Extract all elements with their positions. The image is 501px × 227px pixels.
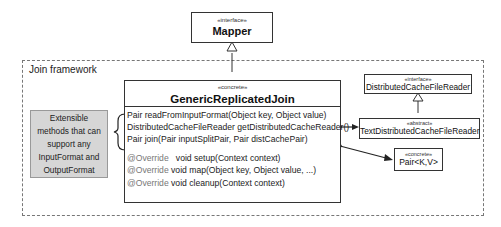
- method-map: @Override void map(Object key, Object va…: [127, 165, 316, 175]
- realization-arrowhead-icon: [413, 93, 423, 101]
- class-divider: [124, 106, 341, 107]
- association-arrowhead-icon: [384, 154, 393, 161]
- note-line: support any: [31, 138, 107, 151]
- note-line: Extensible: [31, 112, 107, 125]
- class-name: Pair<K,V>: [395, 157, 442, 168]
- method-read-from-input-format: Pair readFromInputFormat(Object key, Obj…: [127, 110, 326, 120]
- note-line: OutputFormat: [31, 164, 107, 177]
- method-setup: @Override void setup(Context context): [127, 153, 280, 163]
- override-annotation: @Override: [127, 178, 169, 188]
- realization-arrowhead-icon: [227, 42, 237, 51]
- method-cleanup: @Override void cleanup(Context context): [127, 178, 285, 188]
- method-join: Pair join(Pair inputSplitPair, Pair dist…: [127, 134, 308, 144]
- class-name: GenericReplicatedJoin: [125, 93, 340, 105]
- method-signature: void setup(Context context): [169, 153, 281, 163]
- stereotype-label: «concrete»: [125, 84, 340, 91]
- override-annotation: @Override: [127, 165, 169, 175]
- association-arrowhead-icon: [352, 124, 359, 130]
- distributed-cache-file-reader-interface: «interface» DistributedCacheFileReader: [364, 74, 472, 94]
- extensibility-note: Extensible methods that can support any …: [30, 110, 108, 178]
- override-annotation: @Override: [127, 153, 169, 163]
- stereotype-label: «interface»: [192, 17, 272, 24]
- mapper-interface-box: «interface» Mapper: [191, 12, 273, 43]
- class-name: TextDistributedCacheFileReader: [360, 126, 479, 137]
- class-name: DistributedCacheFileReader: [365, 82, 471, 92]
- method-signature: void map(Object key, Object value, ...): [169, 165, 316, 175]
- method-get-distributed-cache-reader: DistributedCacheFileReader getDistribute…: [127, 122, 349, 132]
- method-signature: void cleanup(Context context): [169, 178, 285, 188]
- pair-class: «concrete» Pair<K,V>: [394, 148, 443, 171]
- note-line: methods that can: [31, 125, 107, 138]
- class-name: Mapper: [192, 25, 272, 37]
- note-line: InputFormat and: [31, 151, 107, 164]
- text-distributed-cache-file-reader-class: «abstract» TextDistributedCacheFileReade…: [359, 118, 480, 139]
